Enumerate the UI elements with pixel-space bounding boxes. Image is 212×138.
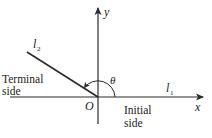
svg-text:2: 2 — [37, 45, 41, 53]
svg-text:side: side — [2, 85, 21, 97]
svg-text:Terminal: Terminal — [2, 73, 43, 85]
svg-text:side: side — [124, 117, 143, 129]
angle-diagram: y x O θ l 1 l 2 Terminal side Initial si… — [0, 0, 212, 138]
terminal-side-label: Terminal side — [2, 73, 43, 97]
svg-text:1: 1 — [170, 89, 174, 97]
x-axis-label: x — [194, 100, 201, 114]
origin-label: O — [85, 99, 94, 113]
initial-side-label: Initial side — [124, 104, 151, 129]
svg-text:Initial: Initial — [124, 104, 151, 116]
terminal-ray-label: l 2 — [33, 37, 41, 53]
initial-ray-label: l 1 — [166, 81, 174, 97]
angle-label: θ — [110, 74, 116, 86]
y-axis-label: y — [103, 5, 110, 19]
